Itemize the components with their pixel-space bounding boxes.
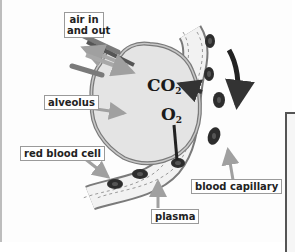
alveolus-label: alveolus [44,95,99,110]
co2-subscript: 2 [175,86,181,96]
o2-base: O [161,104,176,124]
air-in-out-label: air in and out [64,12,104,38]
side-panel-frame [285,112,295,252]
blood-capillary-leader [228,150,233,180]
blood-flow-arrow [229,50,238,105]
o2-subscript: 2 [176,115,182,125]
air-label-line1: air in [67,14,101,25]
blood-capillary-label: blood capillary [191,179,282,194]
o2-label: O2 [161,106,182,129]
co2-base: CO [147,75,175,95]
co2-label: CO2 [147,77,182,100]
red-blood-cell-label: red blood cell [20,146,105,161]
plasma-label: plasma [151,209,199,224]
air-label-line2: and out [67,25,101,36]
